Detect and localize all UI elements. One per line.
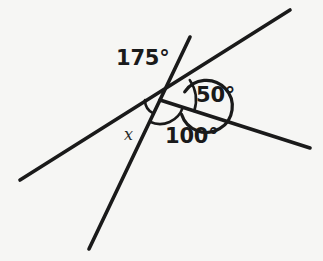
diagram-canvas: [0, 0, 323, 261]
label-angle-175: 175°: [116, 48, 170, 69]
label-angle-50: 50°: [196, 85, 235, 106]
label-angle-100: 100°: [165, 126, 219, 147]
angle-diagram-figure: 175° 50° 100° x: [0, 0, 323, 261]
label-angle-unknown-x: x: [124, 127, 133, 143]
arc-angle-x: [145, 100, 154, 114]
ray-lower-left-to-upper-right: [20, 10, 290, 180]
